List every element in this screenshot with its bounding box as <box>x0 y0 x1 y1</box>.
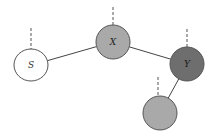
graph-diagram: SXY <box>0 0 215 136</box>
edge-x-y <box>129 47 170 59</box>
node-x: X <box>96 25 130 59</box>
node-s: S <box>14 49 48 81</box>
node-label: X <box>109 37 117 47</box>
nodes-group: SXY <box>14 25 204 130</box>
node-label: S <box>28 60 34 70</box>
edge-y-z <box>168 79 179 98</box>
edge-s-x <box>47 47 96 61</box>
node-label: Y <box>184 59 191 69</box>
node-circle <box>143 96 177 130</box>
node-z <box>143 96 177 130</box>
node-y: Y <box>170 47 204 81</box>
